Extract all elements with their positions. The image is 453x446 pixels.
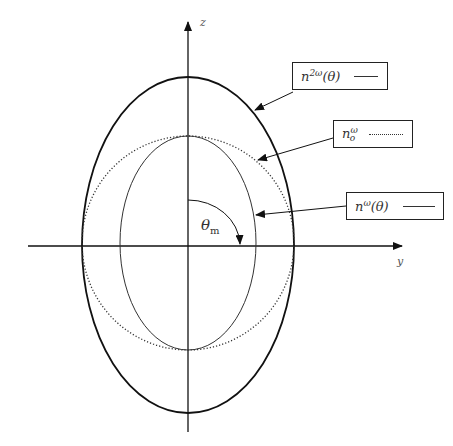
legend-n-omega-o: nωo — [333, 120, 413, 148]
theta-m-label: θm — [201, 216, 220, 236]
y-axis-label: y — [397, 255, 403, 268]
solid-thin-line-sample — [403, 206, 435, 207]
legend-n2omega-theta: n2ω(θ) — [292, 62, 388, 90]
legend-symbol: nωo — [342, 125, 355, 144]
z-axis-label: z — [200, 16, 206, 29]
legend-symbol: n2ω(θ) — [301, 68, 340, 84]
legend-symbol: nω(θ) — [355, 198, 389, 214]
solid-thick-line-sample — [354, 76, 378, 77]
dotted-line-sample — [369, 134, 403, 135]
leader-n-omega-theta — [256, 206, 346, 215]
leader-n2omega — [255, 92, 293, 110]
leader-n-omega-o — [258, 138, 333, 160]
legend-n-omega-theta: nω(θ) — [346, 192, 444, 220]
